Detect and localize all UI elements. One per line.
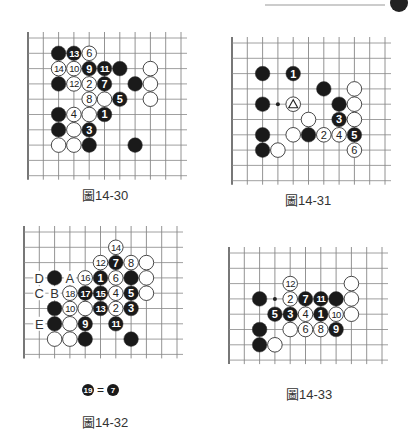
white-stone: 8 xyxy=(314,322,329,337)
svg-text:5: 5 xyxy=(272,308,278,320)
white-stone xyxy=(344,292,359,307)
black-stone: 5 xyxy=(268,307,283,322)
white-stone: 10 xyxy=(329,307,344,322)
black-stone xyxy=(252,292,267,307)
svg-text:6: 6 xyxy=(302,323,308,335)
white-stone: 6 xyxy=(298,322,313,337)
svg-text:1: 1 xyxy=(318,308,324,320)
white-stone: 12 xyxy=(283,276,298,291)
white-stone xyxy=(344,276,359,291)
caption-fig-14-33: 圖14-33 xyxy=(286,384,332,403)
black-stone: 11 xyxy=(314,292,329,307)
black-stone xyxy=(252,322,267,337)
black-stone xyxy=(252,338,267,353)
svg-text:7: 7 xyxy=(302,293,308,305)
black-stone: 7 xyxy=(298,292,313,307)
svg-text:12: 12 xyxy=(286,278,296,289)
hoshi-point xyxy=(273,297,277,301)
white-stone xyxy=(283,322,298,337)
white-stone: 2 xyxy=(283,292,298,307)
svg-text:11: 11 xyxy=(316,293,326,304)
svg-text:3: 3 xyxy=(287,308,293,320)
black-stone xyxy=(329,292,344,307)
black-stone-7: 7 xyxy=(107,384,119,396)
go-board-fig-14-33: 122711534110689 xyxy=(0,0,401,380)
svg-text:2: 2 xyxy=(287,293,293,305)
svg-text:9: 9 xyxy=(333,323,339,335)
white-stone: 4 xyxy=(298,307,313,322)
caption-fig-14-32: 圖14-32 xyxy=(82,412,128,431)
black-stone: 9 xyxy=(329,322,344,337)
black-stone: 1 xyxy=(314,307,329,322)
black-stone-19: 19 xyxy=(82,384,94,396)
svg-text:10: 10 xyxy=(331,309,341,320)
white-stone xyxy=(344,307,359,322)
black-stone: 3 xyxy=(283,307,298,322)
white-stone xyxy=(268,338,283,353)
equivalence-note: 19 = 7 xyxy=(82,383,119,397)
equals-sign: = xyxy=(97,383,104,397)
svg-text:4: 4 xyxy=(302,308,308,320)
svg-text:8: 8 xyxy=(318,323,324,335)
